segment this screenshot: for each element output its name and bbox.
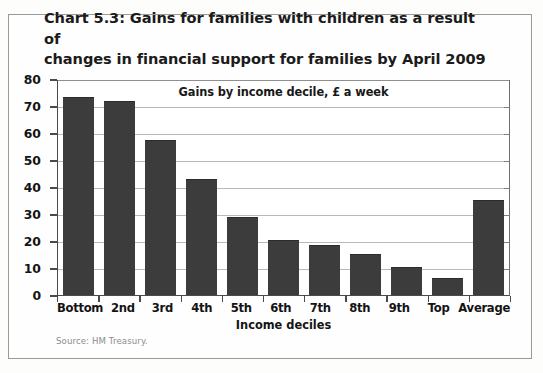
y-axis-tick	[50, 295, 57, 297]
bar-bottom	[63, 97, 94, 295]
y-axis-label: 70	[0, 101, 41, 113]
y-axis-label: 0	[0, 290, 41, 302]
bar-slot	[468, 80, 509, 295]
y-axis-tick	[50, 106, 57, 108]
x-axis-label: 9th	[379, 301, 418, 315]
y-axis-tick	[50, 160, 57, 162]
x-axis-label: 2nd	[103, 301, 142, 315]
y-axis-tick	[50, 214, 57, 216]
y-axis-tick	[50, 133, 57, 135]
y-axis-label: 10	[0, 263, 41, 275]
bar-slot	[58, 80, 99, 295]
source-note: Source: HM Treasury.	[56, 336, 148, 346]
bar-2nd	[104, 101, 135, 295]
y-axis-tick-right	[504, 269, 510, 270]
x-axis-label: 7th	[300, 301, 339, 315]
y-axis-tick-right	[504, 242, 510, 243]
chart-title-line-1: Chart 5.3: Gains for families with child…	[44, 8, 494, 49]
bar-slot	[222, 80, 263, 295]
bar-8th	[350, 254, 381, 296]
x-axis-label: Average	[458, 301, 510, 315]
bar-average	[473, 200, 504, 296]
x-axis-title: Income deciles	[57, 318, 510, 332]
x-axis-label: Bottom	[57, 301, 103, 315]
bar-9th	[391, 267, 422, 295]
y-axis-tick-right	[504, 215, 510, 216]
bar-slot	[263, 80, 304, 295]
x-axis-labels: Bottom2nd3rd4th5th6th7th8th9thTopAverage	[57, 301, 510, 315]
bar-slot	[386, 80, 427, 295]
x-axis-label: 8th	[340, 301, 379, 315]
bar-slot	[304, 80, 345, 295]
y-axis-tick-right	[504, 161, 510, 162]
y-axis-tick-right	[504, 107, 510, 108]
x-axis-label: 4th	[182, 301, 221, 315]
bar-7th	[309, 245, 340, 295]
x-axis-label: 3rd	[143, 301, 182, 315]
y-axis-label: 40	[0, 182, 41, 194]
x-axis-label: Top	[419, 301, 458, 315]
y-axis-label: 20	[0, 236, 41, 248]
y-axis-label: 30	[0, 209, 41, 221]
chart-title-line-2: changes in financial support for familie…	[44, 49, 494, 70]
bar-6th	[268, 240, 299, 295]
y-axis-label: 60	[0, 128, 41, 140]
bar-slot	[427, 80, 468, 295]
bar-slot	[181, 80, 222, 295]
y-axis-tick	[50, 241, 57, 243]
bar-4th	[186, 179, 217, 295]
plot-area: Gains by income decile, £ a week	[57, 80, 510, 296]
y-axis-tick	[50, 187, 57, 189]
y-axis-label: 50	[0, 155, 41, 167]
y-axis-tick-right	[504, 188, 510, 189]
bar-slot	[345, 80, 386, 295]
x-axis-label: 6th	[261, 301, 300, 315]
bar-3rd	[145, 140, 176, 295]
x-axis-label: 5th	[222, 301, 261, 315]
x-axis-tick	[510, 296, 511, 302]
bar-series	[58, 80, 509, 295]
bar-5th	[227, 217, 258, 295]
chart-title: Chart 5.3: Gains for families with child…	[44, 8, 494, 70]
bar-slot	[99, 80, 140, 295]
bar-top	[432, 278, 463, 295]
y-axis-tick	[50, 79, 57, 81]
y-axis-tick-right	[504, 134, 510, 135]
y-axis-label: 80	[0, 74, 41, 86]
y-axis-tick	[50, 268, 57, 270]
bar-slot	[140, 80, 181, 295]
